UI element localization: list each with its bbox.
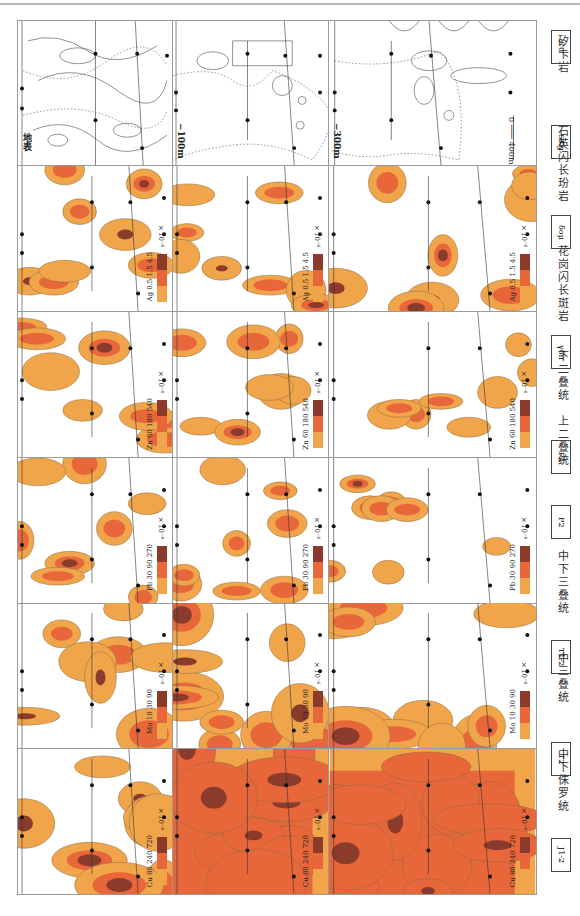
depth-label-300m: −300m [332, 123, 342, 159]
geology-panel-300m: −300m 0 ─── 400m [329, 21, 536, 165]
Mo-panel-地表: Mo 10 30 90×10⁻⁶ [18, 603, 173, 748]
Mo-color-legend [520, 691, 530, 739]
Ag-units: ×10⁻⁶ [520, 224, 528, 247]
Pb-legend-values: Pb 30 90 270 [302, 544, 310, 591]
Zn-color-legend [157, 400, 167, 448]
Mo-color-legend [157, 691, 167, 739]
Ag-anomaly-map [329, 166, 536, 311]
Cu-panel-地表: Cu 80 240 720×10⁻⁶ [18, 749, 173, 894]
Cu-units: ×10⁻⁶ [157, 807, 165, 830]
Zn-units: ×10⁻⁶ [520, 370, 528, 393]
Zn-legend-values: Zn 60 180 540 [509, 398, 517, 450]
Pb-color-legend [313, 546, 323, 594]
Zn-units: ×10⁻⁶ [157, 370, 165, 393]
depth-label-surface: 地表 [21, 133, 34, 151]
row-Zn: Zn 60 180 540×10⁻⁶ Zn 60 180 540×10⁻⁶ Zn… [18, 312, 536, 458]
Cu-panel--100m: Cu 80 240 720×10⁻⁶ [173, 749, 329, 894]
geology-panel-surface: 地表 [18, 21, 173, 165]
geology-map-100m [173, 21, 328, 165]
Zn-units: ×10⁻⁶ [313, 370, 321, 393]
Ag-legend-values: Ag 0.5 1.5 4.5 [302, 252, 310, 302]
Zn-legend-values: Zn 60 180 540 [146, 398, 154, 450]
Zn-color-legend [520, 400, 530, 448]
Mo-legend-values: Mo 10 30 90 [146, 689, 154, 734]
Ag-color-legend [520, 254, 530, 302]
Cu-units: ×10⁻⁶ [313, 807, 321, 830]
Pb-units: ×10⁻⁶ [313, 516, 321, 539]
row-geology: 地表 −100m [18, 21, 536, 166]
legend-column: J1-2 中下侏罗统T2 中三叠统T1-2 中下三叠统P2 上二叠统P1 下二叠… [544, 0, 580, 916]
Cu-color-legend [313, 837, 323, 885]
Zn-anomaly-map [329, 312, 536, 457]
Zn-legend-values: Zn 60 180 540 [302, 398, 310, 450]
Pb-legend-values: Pb 30 90 270 [146, 544, 154, 591]
legend-symbol-box: Cu [551, 30, 571, 64]
Cu-legend-values: Cu 80 240 720 [302, 835, 310, 887]
Pb-color-legend [520, 546, 530, 594]
Mo-units: ×10⁻⁶ [313, 661, 321, 684]
Mo-color-legend [313, 691, 323, 739]
Pb-units: ×10⁻⁶ [157, 516, 165, 539]
Cu-panel--300m: Cu 80 240 720×10⁻⁶ [329, 749, 536, 894]
Pb-color-legend [157, 546, 167, 594]
Mo-units: ×10⁻⁶ [157, 661, 165, 684]
Ag-panel-地表: Ag 0.5 1.5 4.5×10⁻⁶ [18, 166, 173, 311]
Mo-legend-values: Mo 10 30 90 [509, 689, 517, 734]
Pb-anomaly-map [329, 458, 536, 603]
Zn-panel-地表: Zn 60 180 540×10⁻⁶ [18, 312, 173, 457]
scale-bar: 0 ─── 400m [507, 117, 516, 164]
Cu-anomaly-map [329, 749, 536, 894]
Pb-panel-地表: Pb 30 90 270×10⁻⁶ [18, 458, 173, 603]
geology-panel-100m: −100m [173, 21, 329, 165]
Ag-color-legend [313, 254, 323, 302]
legend-item-8: Cu 矿体 [544, 0, 580, 916]
Ag-color-legend [157, 254, 167, 302]
Ag-units: ×10⁻⁶ [313, 224, 321, 247]
top-rule [0, 3, 580, 5]
Cu-units: ×10⁻⁶ [520, 807, 528, 830]
Ag-legend-values: Ag 0.5 1.5 4.5 [146, 252, 154, 302]
geology-map-300m [329, 21, 536, 165]
Pb-legend-values: Pb 30 90 270 [509, 544, 517, 591]
Mo-panel--300m: Mo 10 30 90×10⁻⁶ [329, 603, 536, 748]
Cu-color-legend [520, 837, 530, 885]
row-Ag: Ag 0.5 1.5 4.5×10⁻⁶ Ag 0.5 1.5 4.5×10⁻⁶ … [18, 166, 536, 312]
geology-map-surface [18, 21, 172, 165]
depth-label-100m: −100m [176, 123, 186, 159]
Zn-panel--100m: Zn 60 180 540×10⁻⁶ [173, 312, 329, 457]
row-Mo: Mo 10 30 90×10⁻⁶ Mo 10 30 90×10⁻⁶ Mo 10 … [18, 603, 536, 749]
figure-frame: 地表 −100m [17, 20, 537, 895]
Cu-legend-values: Cu 80 240 720 [509, 835, 517, 887]
Cu-legend-values: Cu 80 240 720 [146, 835, 154, 887]
Zn-panel--300m: Zn 60 180 540×10⁻⁶ [329, 312, 536, 457]
Mo-units: ×10⁻⁶ [520, 661, 528, 684]
Ag-legend-values: Ag 0.5 1.5 4.5 [509, 252, 517, 302]
Pb-units: ×10⁻⁶ [520, 516, 528, 539]
Pb-panel--100m: Pb 30 90 270×10⁻⁶ [173, 458, 329, 603]
Zn-color-legend [313, 400, 323, 448]
row-Cu: Cu 80 240 720×10⁻⁶ Cu 80 240 720×10⁻⁶ Cu… [18, 749, 536, 895]
Ag-panel--300m: Ag 0.5 1.5 4.5×10⁻⁶ [329, 166, 536, 311]
Mo-legend-values: Mo 10 30 90 [302, 689, 310, 734]
Mo-anomaly-map [329, 603, 536, 748]
Ag-panel--100m: Ag 0.5 1.5 4.5×10⁻⁶ [173, 166, 329, 311]
Mo-panel--100m: Mo 10 30 90×10⁻⁶ [173, 603, 329, 748]
Cu-color-legend [157, 837, 167, 885]
Ag-units: ×10⁻⁶ [157, 224, 165, 247]
Pb-panel--300m: Pb 30 90 270×10⁻⁶ [329, 458, 536, 603]
row-Pb: Pb 30 90 270×10⁻⁶ Pb 30 90 270×10⁻⁶ Pb 3… [18, 458, 536, 604]
